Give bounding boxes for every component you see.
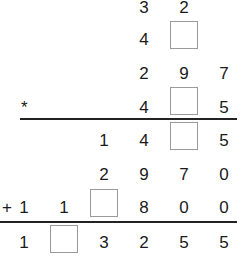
digit: 5 bbox=[209, 131, 239, 151]
blank-box[interactable] bbox=[170, 122, 198, 150]
digit: 0 bbox=[209, 165, 239, 185]
digit: 5 bbox=[169, 233, 199, 253]
digit: 4 bbox=[129, 98, 159, 118]
blank-box[interactable] bbox=[50, 225, 78, 253]
digit: 0 bbox=[209, 198, 239, 218]
digit: 3 bbox=[129, 0, 159, 18]
digit: 4 bbox=[129, 131, 159, 151]
digit: 3 bbox=[89, 233, 119, 253]
sum-rule-line bbox=[0, 221, 237, 223]
multiply-operator: * bbox=[21, 98, 28, 118]
digit: 4 bbox=[129, 30, 159, 50]
digit: 5 bbox=[209, 98, 239, 118]
digit: 5 bbox=[209, 233, 239, 253]
digit: 1 bbox=[89, 131, 119, 151]
digit: 9 bbox=[129, 165, 159, 185]
digit: 2 bbox=[89, 165, 119, 185]
digit: 7 bbox=[169, 165, 199, 185]
digit: 0 bbox=[169, 198, 199, 218]
digit: 9 bbox=[169, 64, 199, 84]
digit: 7 bbox=[209, 64, 239, 84]
blank-box[interactable] bbox=[170, 87, 198, 115]
digit: 1 bbox=[49, 198, 79, 218]
product-rule-line bbox=[20, 118, 237, 120]
digit: 8 bbox=[129, 198, 159, 218]
digit: 2 bbox=[129, 233, 159, 253]
blank-box[interactable] bbox=[170, 21, 198, 49]
digit: 2 bbox=[129, 64, 159, 84]
digit: 1 bbox=[9, 198, 39, 218]
digit: 2 bbox=[169, 0, 199, 18]
digit: 1 bbox=[9, 233, 39, 253]
blank-box[interactable] bbox=[90, 189, 118, 217]
